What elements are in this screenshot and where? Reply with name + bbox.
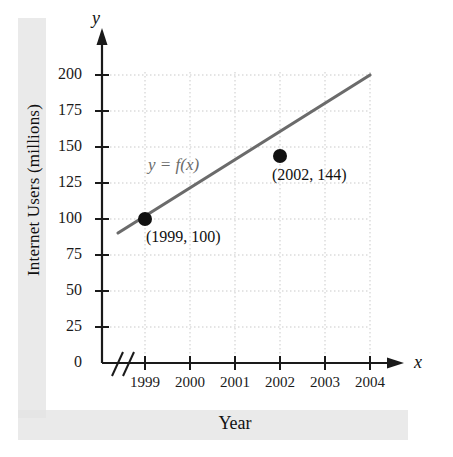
y-axis <box>95 28 109 363</box>
y-tick-label-0: 0 <box>20 353 82 371</box>
y-axis-variable-label: y <box>92 8 100 29</box>
chart-figure: 200 175 150 125 100 75 50 25 0 1999 2000… <box>0 0 453 457</box>
x-axis-title: Year <box>120 413 350 434</box>
point-label-2002: (2002, 144) <box>272 166 347 184</box>
function-label: y = f(x) <box>148 155 199 175</box>
data-point-1999 <box>138 212 152 226</box>
data-point-2002 <box>273 149 287 163</box>
data-line <box>118 75 370 233</box>
x-axis-variable-label: x <box>414 352 422 373</box>
gridlines-vertical <box>145 72 370 363</box>
x-tick-label-2004: 2004 <box>340 374 400 391</box>
y-axis-title: Internet Users (millions) <box>24 50 44 330</box>
x-axis <box>102 356 404 370</box>
gridlines-horizontal <box>102 75 370 327</box>
point-label-1999: (1999, 100) <box>146 228 221 246</box>
